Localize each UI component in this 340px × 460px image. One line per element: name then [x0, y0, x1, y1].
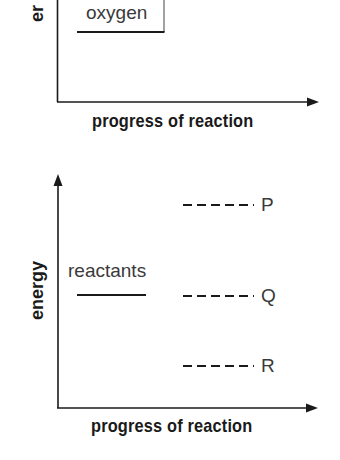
bottom-chart: [54, 174, 319, 413]
bottom-y-axis-arrowhead: [54, 174, 63, 186]
reactants-label: reactants: [68, 260, 146, 282]
bottom-x-axis-label: progress of reaction: [91, 415, 252, 437]
top-y-axis-label-fragment: er: [27, 5, 48, 22]
diagram-canvas: [0, 0, 340, 460]
r-label: R: [261, 355, 275, 377]
p-label: P: [261, 194, 274, 216]
bottom-x-axis-arrowhead: [306, 404, 318, 413]
bottom-y-axis-label: energy: [27, 261, 48, 320]
top-x-axis-arrowhead: [307, 98, 319, 107]
q-label: Q: [261, 285, 276, 307]
top-x-axis-label: progress of reaction: [92, 110, 253, 132]
oxygen-label: oxygen: [86, 2, 147, 24]
